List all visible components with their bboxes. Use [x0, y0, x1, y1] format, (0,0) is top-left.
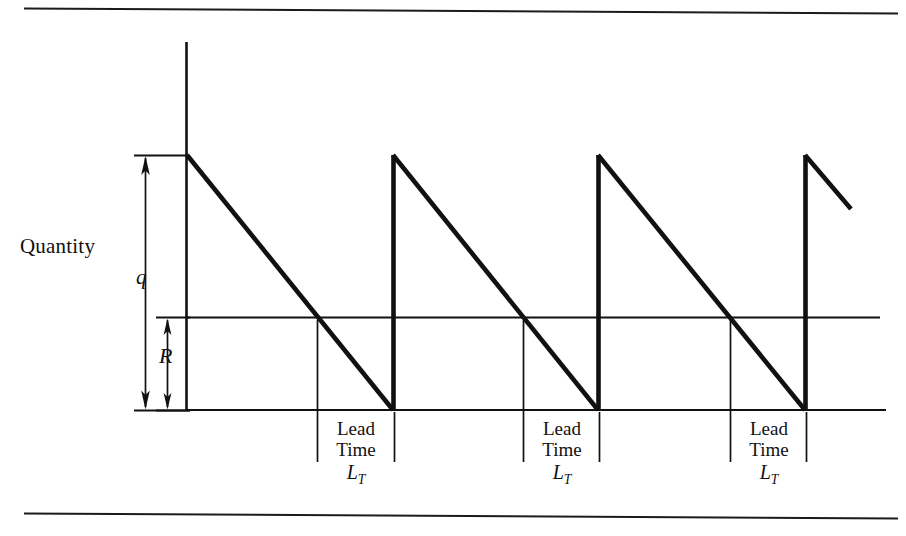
- figure-top-rule: [24, 9, 898, 14]
- lead-time-label-2: Lead Time LT: [528, 419, 596, 488]
- order-quantity-label: q: [136, 267, 147, 288]
- lead-time-label-1: Lead Time LT: [322, 419, 390, 488]
- reorder-point-label: R: [159, 345, 172, 367]
- lead-time-label-3: Lead Time LT: [735, 419, 803, 488]
- lead-time-label-1-line1: Lead: [337, 418, 375, 439]
- lead-time-symbol-3: LT: [735, 462, 803, 488]
- lead-time-symbol-2: LT: [528, 462, 596, 488]
- y-axis-label: Quantity: [20, 236, 95, 257]
- inventory-level-curve: [187, 155, 851, 410]
- lead-time-label-3-line1: Lead: [750, 418, 788, 439]
- lead-time-symbol-1: LT: [322, 462, 390, 488]
- lead-time-label-2-line1: Lead: [543, 418, 581, 439]
- figure-bottom-rule: [24, 514, 898, 519]
- figure-container: Quantity q R Lead Time LT Lead Time LT L…: [0, 0, 906, 536]
- lead-time-label-3-line2: Time: [749, 439, 788, 460]
- lead-time-label-1-line2: Time: [336, 439, 375, 460]
- lead-time-label-2-line2: Time: [542, 439, 581, 460]
